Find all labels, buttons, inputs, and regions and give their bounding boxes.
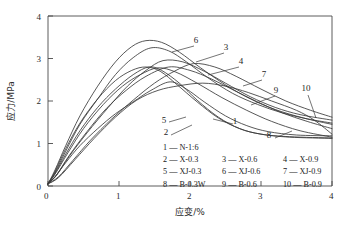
callout-5: 5	[162, 115, 167, 125]
legend-entry: 10 — B-0.9	[283, 180, 322, 189]
x-tick-0: 0	[44, 191, 49, 201]
y-tick-2: 2	[37, 96, 42, 106]
legend-entry: 5 — XJ-0.3	[163, 167, 201, 176]
legend: 1 — N-1:62 — X-0.33 — X-0.64 — X-0.95 — …	[163, 143, 322, 189]
x-tick-2: 2	[187, 191, 192, 201]
legend-entry: 7 — XJ-0.9	[283, 167, 321, 176]
curve-7	[48, 63, 332, 183]
legend-entry: 2 — X-0.3	[163, 155, 198, 164]
y-axis-title: 应力/MPa	[5, 81, 16, 120]
x-tick-1: 1	[116, 191, 121, 201]
x-axis-title: 应变/%	[175, 206, 205, 217]
legend-entry: 6 — XJ-0.6	[222, 167, 260, 176]
callout-8: 8	[267, 130, 272, 140]
y-tick-4: 4	[37, 12, 42, 22]
callout-7: 7	[262, 69, 267, 79]
callout-10: 10	[302, 83, 312, 93]
legend-entry: 8 — B-0.3W	[163, 180, 206, 189]
callout-3: 3	[224, 42, 229, 52]
callout-6: 6	[194, 35, 199, 45]
legend-entry: 9 — B-0.6	[222, 180, 257, 189]
callout-2: 2	[164, 127, 169, 137]
x-tick-4: 4	[329, 191, 334, 201]
stress-strain-chart: 4 3 2 1 0 0 1 2 3 4 应变/% 应力/MPa	[0, 0, 343, 236]
y-tick-3: 3	[37, 54, 42, 64]
callout-4: 4	[239, 56, 244, 66]
y-tick-1: 1	[37, 139, 42, 149]
callout-1: 1	[233, 116, 238, 126]
y-tick-0: 0	[37, 182, 42, 192]
y-axis-ticks: 4 3 2 1 0	[37, 12, 54, 192]
curve-4	[48, 60, 332, 184]
x-tick-3: 3	[258, 191, 263, 201]
legend-entry: 1 — N-1:6	[163, 143, 198, 152]
callout-9: 9	[274, 85, 279, 95]
legend-entry: 4 — X-0.9	[283, 155, 318, 164]
legend-entry: 3 — X-0.6	[222, 155, 257, 164]
